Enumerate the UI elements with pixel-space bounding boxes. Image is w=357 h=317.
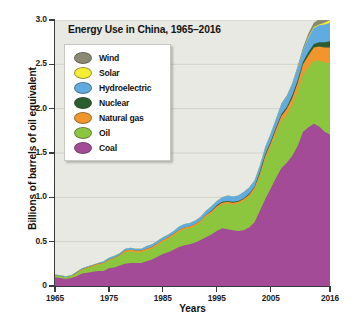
x-axis-title: Years <box>55 303 330 314</box>
legend-swatch-icon <box>74 112 92 124</box>
legend-item-label: Wind <box>99 53 119 63</box>
legend-item-nuclear[interactable]: Nuclear <box>65 95 170 110</box>
x-tick-mark <box>162 287 163 292</box>
y-tick-mark <box>49 152 55 153</box>
legend-item-label: Natural gas <box>99 113 144 123</box>
legend-item-label: Solar <box>99 68 120 78</box>
legend-item-label: Nuclear <box>99 98 129 108</box>
x-tick-label: 1965 <box>35 293 75 303</box>
y-tick-mark <box>49 108 55 109</box>
y-tick-mark <box>49 64 55 65</box>
y-tick-mark <box>49 19 55 20</box>
y-tick-label: 3.0 <box>7 14 47 24</box>
legend-item-oil[interactable]: Oil <box>65 125 170 140</box>
legend-item-label: Hydroelectric <box>99 83 151 93</box>
legend-item-hydroelectric[interactable]: Hydroelectric <box>65 80 170 95</box>
legend-item-coal[interactable]: Coal <box>65 140 170 155</box>
legend-item-natural-gas[interactable]: Natural gas <box>65 110 170 125</box>
legend-swatch-icon <box>74 127 92 139</box>
x-axis-line <box>54 286 331 287</box>
legend-item-label: Oil <box>99 128 110 138</box>
x-tick-label: 2005 <box>251 293 291 303</box>
x-tick-label: 1985 <box>143 293 183 303</box>
legend-swatch-icon <box>74 97 92 109</box>
x-tick-mark <box>108 287 109 292</box>
x-tick-label: 1995 <box>197 293 237 303</box>
chart-figure: 00.51.01.52.02.53.0 19651975198519952005… <box>0 0 357 317</box>
legend-item-label: Coal <box>99 143 117 153</box>
legend-swatch-icon <box>74 52 92 64</box>
y-axis-title: Billions of barrels of oil equivalent <box>27 24 38 274</box>
legend-swatch-icon <box>74 67 92 79</box>
legend-swatch-icon <box>74 82 92 94</box>
x-tick-label: 1975 <box>89 293 129 303</box>
y-tick-mark <box>49 241 55 242</box>
x-tick-mark <box>216 287 217 292</box>
x-tick-label: 2016 <box>310 293 350 303</box>
legend-item-solar[interactable]: Solar <box>65 65 170 80</box>
x-tick-mark <box>54 287 55 292</box>
chart-legend: WindSolarHydroelectricNuclearNatural gas… <box>64 44 171 161</box>
legend-swatch-icon <box>74 142 92 154</box>
x-tick-mark <box>270 287 271 292</box>
legend-item-wind[interactable]: Wind <box>65 50 170 65</box>
y-tick-label: 0 <box>7 280 47 290</box>
y-tick-mark <box>49 197 55 198</box>
chart-title: Energy Use in China, 1965–2016 <box>68 24 221 35</box>
x-tick-mark <box>329 287 330 292</box>
